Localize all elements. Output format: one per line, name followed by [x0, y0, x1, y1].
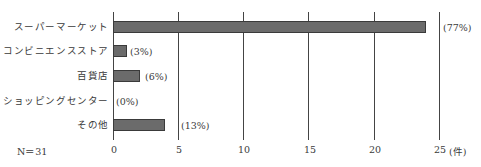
bar-department-store	[113, 70, 140, 82]
percent-label: (13%)	[181, 120, 210, 132]
category-label: その他	[77, 119, 109, 131]
bar-convenience-store	[113, 45, 127, 57]
x-tick-label: 0	[111, 144, 117, 155]
percent-label: (77%)	[443, 22, 472, 34]
x-tick-label: 25	[434, 144, 446, 155]
bar-supermarket	[113, 21, 426, 33]
sample-size-label: N＝31	[17, 144, 47, 158]
bar-other	[113, 119, 165, 131]
x-tick-label: 20	[369, 144, 381, 155]
x-tick-label: 15	[304, 144, 316, 155]
category-label: スーパーマーケット	[14, 21, 109, 33]
percent-label: (3%)	[130, 46, 152, 58]
gridline-25	[439, 12, 440, 140]
x-tick-label: 10	[238, 144, 250, 155]
category-label: ショッピングセンター	[3, 95, 109, 107]
horizontal-bar-chart: スーパーマーケット (77%) コンビニエンスストア (3%) 百貨店 (6%)…	[0, 0, 481, 167]
category-label: コンビニエンスストア	[3, 45, 109, 57]
category-label: 百貨店	[77, 70, 109, 82]
percent-label: (6%)	[145, 71, 167, 83]
percent-label: (0%)	[116, 96, 138, 108]
x-axis-unit: (件)	[449, 144, 466, 158]
x-tick-label: 5	[176, 144, 182, 155]
